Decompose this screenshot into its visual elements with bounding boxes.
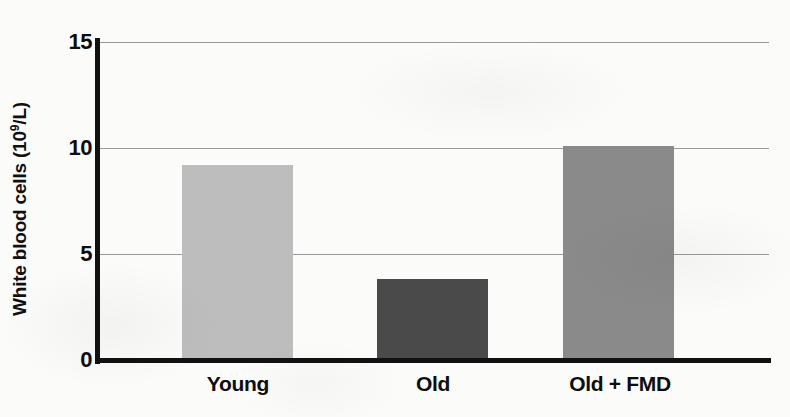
y-tick-label-0: 0 <box>48 347 92 373</box>
y-axis-title: White blood cells (109/L) <box>0 0 40 417</box>
y-axis-line <box>95 38 100 364</box>
y-axis-title-text: White blood cells (109/L) <box>9 102 31 316</box>
bar-young <box>182 165 293 360</box>
y-axis-title-base: White blood cells (10 <box>9 131 30 316</box>
y-tick-label-10: 10 <box>48 135 92 161</box>
x-tick-label-old: Old <box>353 372 513 396</box>
x-tick-label-old-fmd: Old + FMD <box>540 372 700 396</box>
x-axis-line <box>95 358 771 363</box>
y-tick-label-15: 15 <box>48 29 92 55</box>
bar-old <box>377 279 488 360</box>
plot-area <box>99 42 769 360</box>
x-tick-label-young: Young <box>158 372 318 396</box>
y-axis-title-superscript: 9 <box>8 124 22 131</box>
y-tick-label-5: 5 <box>48 241 92 267</box>
bar-old-fmd <box>563 146 674 360</box>
y-axis-tick-labels: 15 10 5 0 <box>46 0 92 417</box>
gridline-15 <box>99 42 769 43</box>
y-axis-title-tail: /L) <box>9 102 30 125</box>
bar-chart: White blood cells (109/L) 15 10 5 0 Youn… <box>0 0 790 417</box>
